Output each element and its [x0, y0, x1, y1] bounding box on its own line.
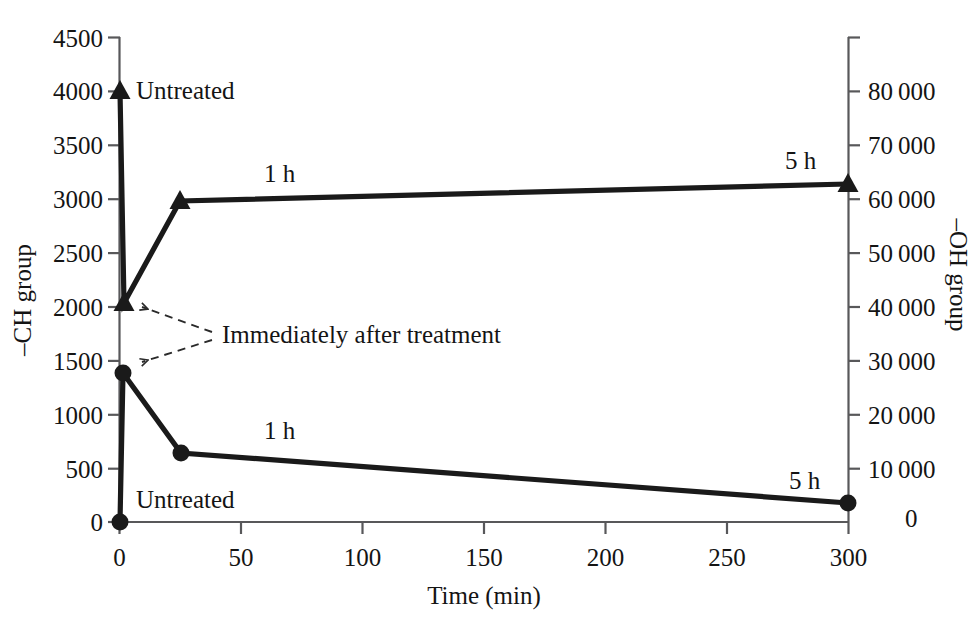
xtick-100: 100 [344, 545, 382, 570]
ytick-left-3000: 3000 [8, 187, 103, 212]
marker-circle-immediate [115, 365, 132, 382]
xtick-0: 0 [113, 545, 126, 570]
figure-container: 4500 4000 3500 3000 2500 2000 1500 1000 … [0, 0, 980, 622]
annotation-immediately-after-treatment: Immediately after treatment [222, 322, 501, 347]
right-axis-title: –OH group [946, 218, 971, 331]
ytick-left-4500: 4500 [8, 25, 103, 50]
annotation-5h-ch: 5 h [785, 148, 816, 173]
ytick-left-1000: 1000 [8, 402, 103, 427]
xtick-300: 300 [830, 545, 868, 570]
ytick-right-20000: 20 000 [868, 402, 936, 427]
ytick-left-0: 0 [8, 510, 103, 535]
annotation-1h-ch: 1 h [264, 161, 295, 186]
annotation-1h-oh: 1 h [264, 418, 295, 443]
ytick-right-10000: 10 000 [868, 456, 936, 481]
xtick-50: 50 [229, 545, 254, 570]
series-ch-group [110, 80, 859, 311]
marker-circle-untreated [112, 514, 129, 531]
xtick-200: 200 [587, 545, 625, 570]
bottom-axis [120, 522, 850, 534]
x-axis-title: Time (min) [427, 583, 541, 608]
annotation-untreated-ch: Untreated [136, 78, 235, 103]
ytick-right-70000: 70 000 [868, 133, 936, 158]
ytick-right-40000: 40 000 [868, 295, 936, 320]
ytick-right-50000: 50 000 [868, 241, 936, 266]
callout-arrows [142, 307, 212, 362]
xtick-250: 250 [708, 545, 746, 570]
annotation-untreated-oh: Untreated [136, 487, 235, 512]
ytick-left-500: 500 [8, 456, 103, 481]
ytick-right-30000: 30 000 [868, 348, 936, 373]
callout-arrow-upper [142, 307, 212, 332]
ytick-right-0: 0 [905, 506, 918, 531]
marker-circle-5h [840, 495, 857, 512]
ytick-right-80000: 80 000 [868, 79, 936, 104]
ytick-left-4000: 4000 [8, 79, 103, 104]
xtick-150: 150 [465, 545, 503, 570]
right-axis [848, 37, 860, 522]
left-axis-title: –CH group [10, 244, 35, 356]
ytick-right-60000: 60 000 [868, 187, 936, 212]
annotation-5h-oh: 5 h [789, 468, 820, 493]
marker-triangle-untreated [110, 80, 131, 99]
ytick-left-3500: 3500 [8, 133, 103, 158]
callout-arrow-lower [142, 340, 212, 362]
marker-circle-1h [173, 445, 190, 462]
